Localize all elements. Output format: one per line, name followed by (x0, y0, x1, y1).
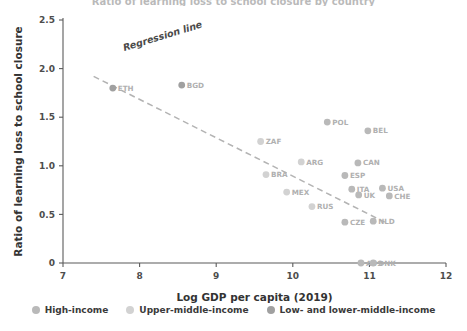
data-point (283, 189, 290, 196)
legend-label: High-income (45, 305, 109, 315)
data-point-label: BEL (373, 126, 388, 135)
data-point-label: MEX (292, 188, 310, 197)
regression-line-group (94, 76, 385, 222)
data-point-label: UK (364, 191, 376, 200)
legend-label: Low- and lower-middle-income (280, 305, 436, 315)
data-point (341, 219, 348, 226)
x-tick-label: 11 (363, 271, 376, 281)
data-point (355, 159, 362, 166)
data-point (358, 260, 365, 267)
x-tick-label: 9 (213, 271, 219, 281)
data-point (379, 185, 386, 192)
y-tick-label: 1.0 (39, 161, 55, 171)
data-point-label: ZAF (266, 137, 282, 146)
data-point (309, 203, 316, 210)
y-axis-title: Ratio of learning loss to school closure (12, 26, 24, 256)
data-point-label: BGD (187, 81, 204, 90)
axes-group: 00.51.01.52.02.5789101112 (39, 15, 452, 281)
data-point-label: ETH (118, 84, 134, 93)
y-tick-label: 0 (49, 258, 55, 268)
data-point-label: CHE (394, 192, 410, 201)
clipped-title: Ratio of learning loss to school closure… (0, 0, 467, 6)
data-point-label: ESP (350, 171, 365, 180)
data-point-label: CAN (363, 158, 380, 167)
legend-swatch-icon (267, 306, 275, 314)
data-point-label: DNK (378, 259, 396, 268)
y-tick-label: 2.0 (39, 64, 55, 74)
data-point-label: ARG (306, 158, 323, 167)
chart-legend: High-incomeUpper-middle-incomeLow- and l… (0, 305, 467, 315)
data-point (364, 127, 371, 134)
x-tick-label: 10 (287, 271, 300, 281)
y-tick-label: 0.5 (39, 210, 55, 220)
x-tick-label: 8 (136, 271, 142, 281)
y-tick-label: 2.5 (39, 15, 55, 25)
x-tick-label: 12 (440, 271, 453, 281)
legend-swatch-icon (126, 306, 134, 314)
data-point (257, 138, 264, 145)
data-point (298, 159, 305, 166)
x-tick-label: 7 (60, 271, 66, 281)
data-point-label: NLD (378, 217, 395, 226)
data-point (341, 172, 348, 179)
regression-line (94, 76, 385, 222)
data-point-label: POL (332, 118, 348, 127)
data-point (370, 218, 377, 225)
data-point (178, 82, 185, 89)
data-point (109, 85, 116, 92)
data-point (386, 193, 393, 200)
legend-item-0[interactable]: High-income (32, 305, 109, 315)
data-point-label: RUS (317, 202, 334, 211)
data-point (348, 186, 355, 193)
legend-item-1[interactable]: Upper-middle-income (126, 305, 248, 315)
data-points-group: POLBELCANESPITAUKUSACHECZENLDAUSDNKZAFAR… (109, 81, 410, 268)
chart-root: Ratio of learning loss to school closure… (0, 0, 467, 331)
y-tick-label: 1.5 (39, 112, 55, 122)
legend-item-2[interactable]: Low- and lower-middle-income (267, 305, 436, 315)
x-axis-title: Log GDP per capita (2019) (176, 291, 332, 303)
regression-line-annotation: Regression line (122, 18, 204, 53)
data-point-label: CZE (350, 218, 365, 227)
annotations-group: Regression line (122, 18, 204, 53)
axis-titles-group: Log GDP per capita (2019)Ratio of learni… (12, 26, 333, 303)
legend-label: Upper-middle-income (139, 305, 248, 315)
data-point-label: BRA (271, 170, 288, 179)
legend-swatch-icon (32, 306, 40, 314)
data-point (370, 260, 377, 267)
data-point (263, 171, 270, 178)
data-point (355, 192, 362, 199)
scatter-plot-svg: 00.51.01.52.02.5789101112 POLBELCANESPIT… (0, 0, 467, 331)
data-point (324, 119, 331, 126)
